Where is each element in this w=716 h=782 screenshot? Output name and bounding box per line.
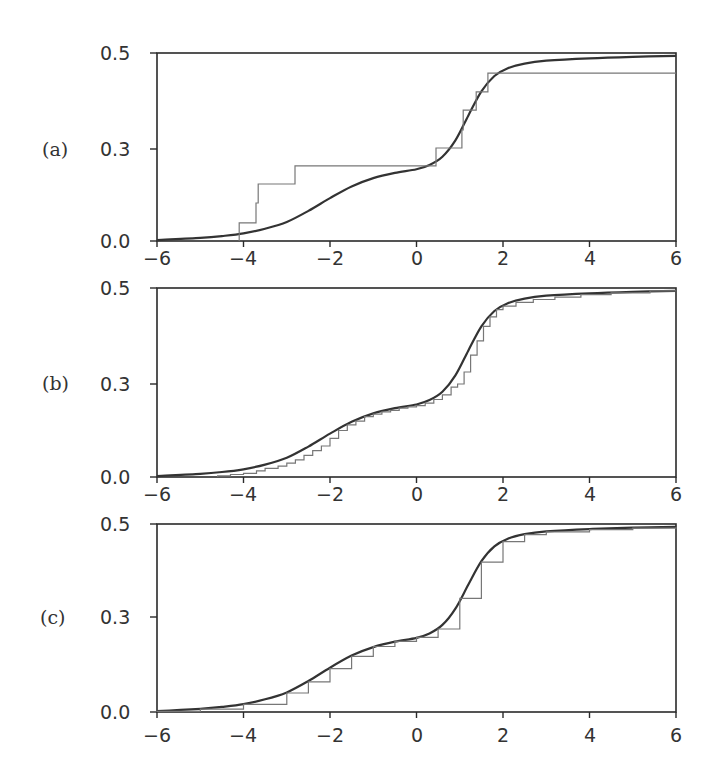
- y-tick-label: 0.5: [100, 42, 130, 64]
- x-tick-label: 6: [670, 247, 682, 269]
- x-tick-label: 2: [497, 724, 509, 746]
- panel-c: (c) 0.5 0.3 0.0 −6 −4 −2 0 2 4 6: [40, 513, 682, 746]
- panel-label: (a): [42, 138, 68, 160]
- smooth-curve-line: [157, 56, 676, 240]
- x-tick-label: 2: [497, 483, 509, 505]
- smooth-curve-line: [157, 527, 676, 711]
- plot-area: [150, 288, 676, 483]
- x-tick-labels: −6 −4 −2 0 2 4 6: [143, 483, 682, 505]
- x-tick-label: −4: [229, 247, 257, 269]
- x-tick-labels: −6 −4 −2 0 2 4 6: [143, 724, 682, 746]
- y-tick-label: 0.3: [100, 606, 130, 628]
- panel-label: (b): [42, 372, 69, 394]
- x-tick-label: 4: [584, 247, 596, 269]
- x-tick-label: 0: [411, 483, 423, 505]
- x-tick-label: −4: [229, 483, 257, 505]
- x-tick-label: 0: [411, 724, 423, 746]
- y-tick-label: 0.5: [100, 513, 130, 535]
- x-tick-label: 4: [584, 724, 596, 746]
- panel-b: (b) 0.5 0.3 0.0 −6 −4 −2 0 2 4 6: [42, 277, 682, 505]
- panel-label: (c): [40, 606, 65, 628]
- plot-frame: [157, 53, 676, 241]
- y-tick-label: 0.5: [100, 277, 130, 299]
- x-tick-label: −2: [316, 724, 344, 746]
- smooth-curve-line: [157, 291, 676, 476]
- y-tick-label: 0.3: [100, 138, 130, 160]
- y-tick-label: 0.3: [100, 373, 130, 395]
- plot-frame: [157, 524, 676, 712]
- y-tick-label: 0.0: [100, 466, 130, 488]
- x-tick-labels: −6 −4 −2 0 2 4 6: [143, 247, 682, 269]
- panel-a: (a) 0.5 0.3 0.0 −6 −4 −2 0 2 4 6: [42, 42, 682, 269]
- x-tick-label: −6: [143, 724, 171, 746]
- step-function-line: [218, 291, 676, 477]
- x-tick-label: −6: [143, 483, 171, 505]
- figure: (a) 0.5 0.3 0.0 −6 −4 −2 0 2 4 6 (b) 0.5…: [0, 0, 716, 782]
- plot-area: [150, 53, 676, 247]
- x-tick-label: 6: [670, 483, 682, 505]
- step-function-line: [239, 73, 676, 241]
- x-tick-label: 2: [497, 247, 509, 269]
- plot-frame: [157, 288, 676, 477]
- plot-area: [150, 524, 676, 718]
- x-tick-label: −6: [143, 247, 171, 269]
- x-tick-label: −2: [316, 247, 344, 269]
- x-tick-label: −4: [229, 724, 257, 746]
- x-tick-label: −2: [316, 483, 344, 505]
- y-tick-label: 0.0: [100, 701, 130, 723]
- x-tick-label: 0: [411, 247, 423, 269]
- y-tick-label: 0.0: [100, 230, 130, 252]
- step-function-line: [157, 527, 676, 712]
- x-tick-label: 4: [584, 483, 596, 505]
- x-tick-label: 6: [670, 724, 682, 746]
